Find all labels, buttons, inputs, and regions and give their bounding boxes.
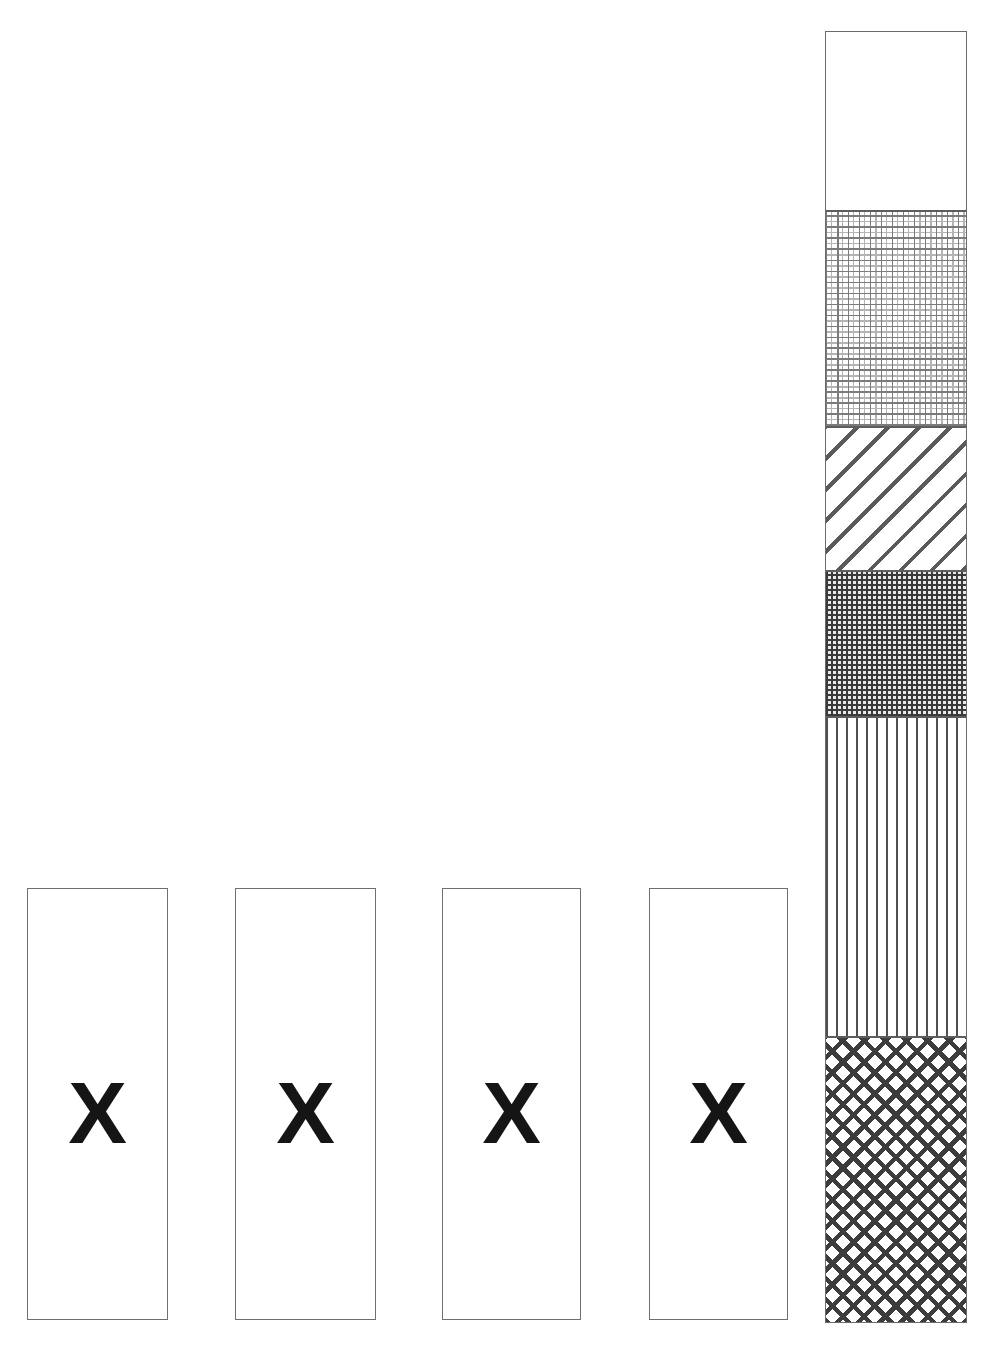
stacked-bar[interactable] xyxy=(825,31,967,1323)
segment-divider-1 xyxy=(826,210,966,212)
placeholder-box-1[interactable]: X xyxy=(27,888,168,1320)
stacked-bar-segment-1[interactable] xyxy=(826,32,966,210)
stacked-bar-segment-3[interactable] xyxy=(826,426,966,570)
placeholder-box-2-label: X xyxy=(236,1069,375,1157)
stacked-bar-segment-6[interactable] xyxy=(826,1036,966,1323)
stacked-bar-segment-5[interactable] xyxy=(826,716,966,1036)
figure-canvas: X X X X xyxy=(0,0,1002,1352)
stacked-bar-segment-4[interactable] xyxy=(826,570,966,716)
placeholder-box-3[interactable]: X xyxy=(442,888,581,1320)
placeholder-box-2[interactable]: X xyxy=(235,888,376,1320)
segment-divider-5 xyxy=(826,1036,966,1038)
placeholder-box-1-label: X xyxy=(28,1069,167,1157)
placeholder-box-3-label: X xyxy=(443,1069,580,1157)
segment-divider-4 xyxy=(826,716,966,718)
placeholder-box-4[interactable]: X xyxy=(649,888,788,1320)
placeholder-box-4-label: X xyxy=(650,1069,787,1157)
segment-divider-2 xyxy=(826,426,966,428)
stacked-bar-segment-2[interactable] xyxy=(826,210,966,426)
segment-divider-3 xyxy=(826,570,966,572)
